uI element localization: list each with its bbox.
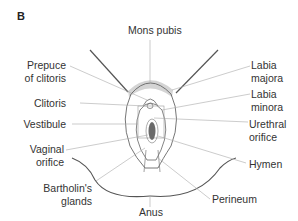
leader-lines	[66, 40, 250, 207]
right-buttock-contour	[150, 158, 236, 196]
left-thigh-contour	[90, 50, 128, 92]
label-bartholin-line1: Bartholin's	[30, 182, 92, 194]
label-mons-pubis: Mons pubis	[128, 24, 182, 36]
label-vaginal-line1: Vaginal	[18, 143, 64, 155]
leader-clitoris	[80, 103, 146, 106]
leader-vaginal-orifice	[66, 135, 148, 150]
leader-hymen	[158, 136, 246, 163]
vulva-anatomy-diagram: B Mons pubis Prepuce of clitoris Clitori…	[0, 0, 298, 221]
label-labia-majora-line2: majora	[251, 72, 283, 84]
label-vaginal-line2: orifice	[18, 156, 64, 168]
leader-urethral	[154, 118, 248, 122]
panel-label: B	[17, 10, 25, 22]
label-prepuce-line2: of clitoris	[18, 72, 66, 84]
label-hymen: Hymen	[249, 158, 282, 170]
label-labia-minora-line1: Labia	[251, 88, 277, 100]
leader-bartholin	[96, 148, 145, 181]
vaginal-orifice-shape	[149, 122, 156, 140]
label-urethral-line2: orifice	[249, 131, 277, 143]
perineal-folds	[144, 150, 160, 172]
label-vestibule: Vestibule	[18, 118, 66, 130]
label-urethral-line1: Urethral	[249, 118, 286, 130]
leader-labia-majora	[172, 66, 250, 90]
label-anus: Anus	[139, 206, 163, 218]
label-bartholin-line2: glands	[30, 195, 92, 207]
label-perineum: Perineum	[212, 193, 257, 205]
label-clitoris: Clitoris	[18, 97, 66, 109]
leader-labia-minora	[162, 94, 250, 110]
label-labia-minora-line2: minora	[251, 101, 283, 113]
leader-perineum	[158, 158, 210, 199]
label-labia-majora-line1: Labia	[251, 59, 277, 71]
label-prepuce-line1: Prepuce	[18, 59, 66, 71]
